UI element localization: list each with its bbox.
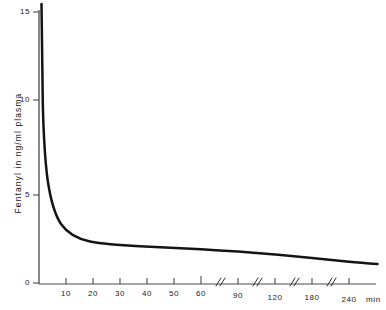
y-tick-label-0: 0 [6,278,30,287]
y-axis-title: Fentanyl in ng/ml plasma [13,73,23,233]
x-axis-break-marks [216,278,336,286]
y-tick-label-15: 15 [6,7,30,16]
y-axis-ticks [33,12,39,283]
x-tick-label-30: 30 [108,289,132,298]
x-axis-unit-label: min [366,295,381,304]
x-axis-ticks [66,276,349,284]
x-tick-label-240: 240 [337,295,361,304]
fentanyl-decay-curve [42,4,378,264]
x-tick-label-20: 20 [81,289,105,298]
x-tick-label-120: 120 [263,293,287,302]
x-tick-label-180: 180 [300,293,324,302]
x-tick-label-40: 40 [135,289,159,298]
fentanyl-plasma-concentration-chart: 15 10 5 0 10 20 30 40 50 60 90 120 180 2… [0,0,386,310]
x-tick-label-50: 50 [162,289,186,298]
x-tick-label-60: 60 [189,289,213,298]
x-tick-label-10: 10 [54,289,78,298]
x-tick-label-90: 90 [226,291,250,300]
chart-plot-area [0,0,386,310]
